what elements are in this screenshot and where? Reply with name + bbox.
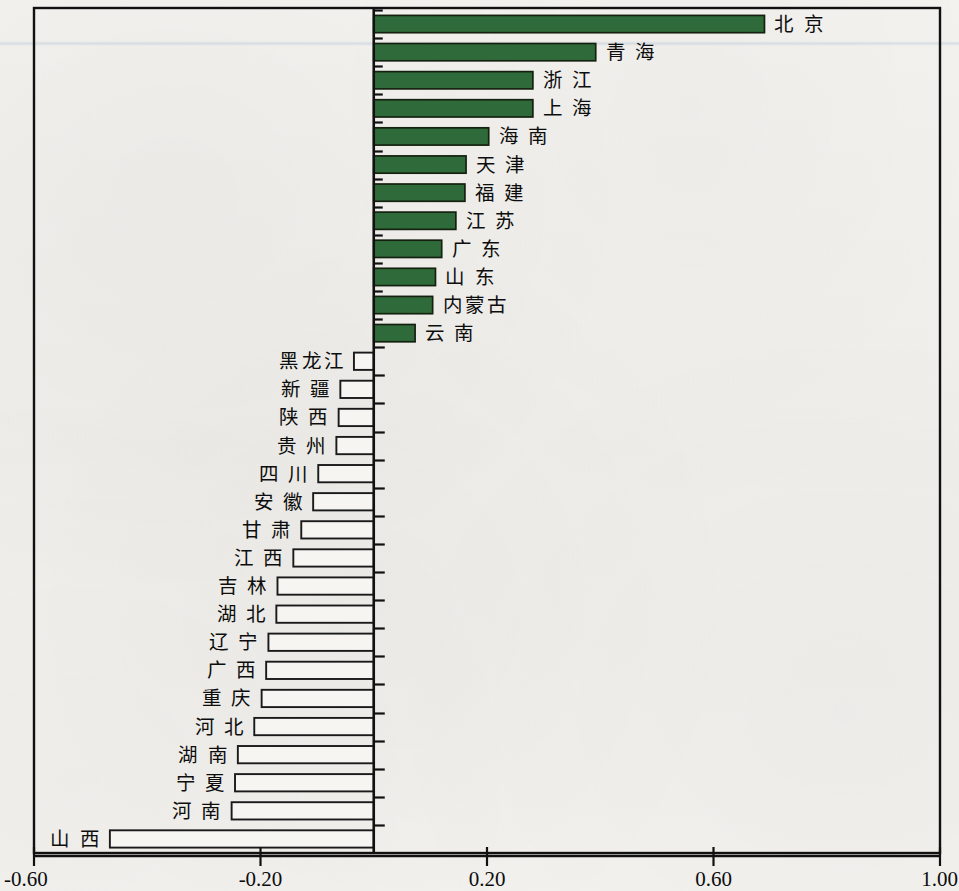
bar-12 (374, 325, 415, 342)
bar-1 (374, 15, 765, 32)
bar-label-13: 黑龙江 (279, 351, 346, 372)
x-tick-label-5: 1.00 (921, 867, 958, 891)
bar-label-24: 广 西 (207, 660, 258, 681)
bar-13 (354, 353, 374, 370)
bar-10 (374, 268, 436, 285)
bar-label-23: 辽 宁 (209, 632, 260, 653)
bar-label-17: 四 川 (259, 464, 310, 485)
bar-6 (374, 156, 466, 173)
bar-16 (336, 437, 373, 454)
bar-label-26: 河 北 (195, 717, 246, 738)
bar-label-29: 河 南 (172, 801, 223, 822)
bar-label-1: 北 京 (774, 14, 825, 35)
bar-label-19: 甘 肃 (242, 520, 293, 541)
bar-3 (374, 72, 533, 89)
x-tick-label-1: -0.60 (4, 867, 48, 891)
bar-label-4: 上 海 (543, 98, 594, 119)
bar-label-7: 福 建 (475, 183, 526, 204)
bar-30 (110, 830, 374, 847)
bar-27 (238, 746, 374, 763)
horizontal-bar-chart: 北 京青 海浙 江上 海海 南天 津福 建江 苏广 东山 东内蒙古云 南黑龙江新… (0, 0, 959, 891)
bar-21 (277, 577, 373, 594)
bar-22 (276, 606, 373, 623)
bar-label-22: 湖 北 (217, 604, 268, 625)
bar-14 (340, 381, 373, 398)
bar-25 (262, 690, 374, 707)
bar-4 (374, 100, 533, 117)
bar-2 (374, 44, 596, 61)
bar-28 (235, 774, 374, 791)
bar-label-11: 内蒙古 (443, 295, 510, 316)
x-tick-label-4: 0.60 (695, 867, 732, 891)
bar-5 (374, 128, 489, 145)
bar-label-3: 浙 江 (543, 70, 594, 91)
bar-29 (232, 802, 374, 819)
x-axis-tick-label-layer: -0.60-0.200.200.601.00 (4, 867, 958, 891)
bar-label-20: 江 西 (234, 548, 285, 569)
x-tick-label-2: -0.20 (239, 867, 283, 891)
bar-label-21: 吉 林 (218, 576, 269, 597)
bar-label-16: 贵 州 (277, 436, 328, 457)
bar-19 (301, 521, 373, 538)
bar-8 (374, 212, 456, 229)
bar-label-5: 海 南 (499, 126, 550, 147)
bar-label-8: 江 苏 (466, 211, 517, 232)
bar-26 (254, 718, 373, 735)
bar-label-30: 山 西 (50, 829, 101, 850)
bar-7 (374, 184, 465, 201)
bar-label-14: 新 疆 (281, 379, 332, 400)
bar-23 (268, 634, 373, 651)
bar-label-27: 湖 南 (178, 745, 229, 766)
bar-20 (293, 549, 373, 566)
bar-11 (374, 296, 433, 313)
bar-18 (313, 493, 374, 510)
bar-15 (339, 409, 374, 426)
bar-label-15: 陕 西 (279, 407, 330, 428)
bar-label-28: 宁 夏 (176, 773, 227, 794)
x-tick-label-3: 0.20 (469, 867, 506, 891)
chart-canvas: 北 京青 海浙 江上 海海 南天 津福 建江 苏广 东山 东内蒙古云 南黑龙江新… (0, 0, 959, 891)
bar-label-6: 天 津 (476, 155, 527, 176)
bar-24 (266, 662, 374, 679)
bar-9 (374, 240, 442, 257)
bar-label-12: 云 南 (425, 323, 476, 344)
bar-label-25: 重 庆 (202, 688, 253, 709)
bar-label-9: 广 东 (452, 239, 503, 260)
bar-label-18: 安 徽 (254, 492, 305, 513)
bar-17 (318, 465, 373, 482)
bar-label-10: 山 东 (445, 267, 496, 288)
bar-label-2: 青 海 (606, 42, 657, 63)
